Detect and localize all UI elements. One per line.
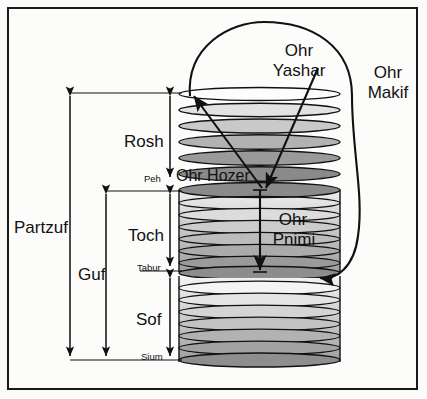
diagram-canvas: Partzuf Guf Rosh Toch Sof Peh Tabur Sium… bbox=[0, 0, 427, 399]
label-ohr-yashar-line2: Yashar bbox=[264, 62, 334, 79]
label-toch: Toch bbox=[128, 227, 164, 244]
label-sof: Sof bbox=[136, 311, 162, 328]
label-tabur: Tabur bbox=[137, 263, 161, 273]
label-ohr-makif-line2: Makif bbox=[358, 84, 418, 101]
label-ohr-hozer: Ohr Hozer bbox=[176, 168, 250, 184]
label-sium: Sium bbox=[141, 352, 163, 362]
label-ohr-pnimi-line2: Pnimi bbox=[263, 231, 325, 248]
label-partzuf: Partzuf bbox=[14, 219, 68, 236]
section-sof-shape bbox=[179, 276, 340, 367]
label-ohr-pnimi-line1: Ohr bbox=[268, 211, 318, 228]
label-rosh: Rosh bbox=[124, 133, 164, 150]
label-guf: Guf bbox=[78, 266, 105, 283]
label-ohr-makif-line1: Ohr bbox=[363, 64, 413, 81]
label-peh: Peh bbox=[144, 174, 161, 184]
diagram-graphics bbox=[0, 0, 427, 399]
label-ohr-yashar-line1: Ohr bbox=[268, 42, 330, 59]
